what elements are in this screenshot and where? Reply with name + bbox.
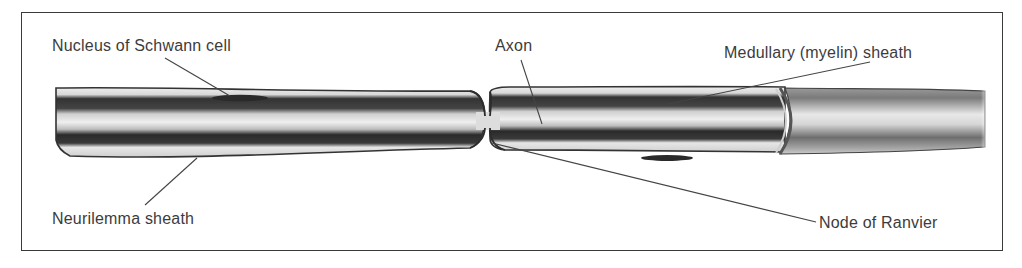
leader-neurilemma-sheath	[145, 158, 197, 205]
leader-node-of-ranvier	[492, 143, 816, 222]
label-node-of-ranvier: Node of Ranvier	[819, 215, 938, 231]
schwann-nucleus-right	[641, 155, 693, 161]
node-gap	[476, 112, 500, 130]
internode-right	[490, 87, 786, 152]
label-neurilemma-sheath: Neurilemma sheath	[52, 211, 194, 227]
internode-left	[56, 88, 485, 157]
label-medullary-sheath: Medullary (myelin) sheath	[724, 45, 912, 61]
label-axon: Axon	[495, 38, 532, 54]
label-schwann-nucleus: Nucleus of Schwann cell	[52, 38, 231, 54]
outer-sheath-cylinder	[776, 86, 988, 156]
schwann-nucleus-left	[212, 95, 268, 101]
